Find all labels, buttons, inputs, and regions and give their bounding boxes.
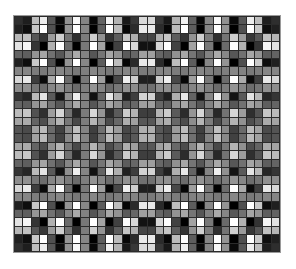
heatmap-cell xyxy=(239,101,246,108)
heatmap-cell xyxy=(247,202,254,209)
heatmap-cell xyxy=(205,218,212,225)
heatmap-cell xyxy=(98,59,105,66)
heatmap-cell xyxy=(114,185,121,192)
heatmap-cell xyxy=(106,143,113,150)
heatmap-cell xyxy=(263,202,270,209)
heatmap-cell xyxy=(90,34,97,41)
heatmap-cell xyxy=(247,67,254,74)
heatmap-cell xyxy=(197,218,204,225)
heatmap-cell xyxy=(255,176,262,183)
heatmap-cell xyxy=(197,202,204,209)
heatmap-cell xyxy=(139,227,146,234)
heatmap-cell xyxy=(230,34,237,41)
heatmap-cell xyxy=(164,160,171,167)
heatmap-cell xyxy=(156,76,163,83)
heatmap-cell xyxy=(15,151,22,158)
heatmap-cell xyxy=(90,210,97,217)
heatmap-cell xyxy=(65,42,72,49)
heatmap-cell xyxy=(90,101,97,108)
heatmap-cell xyxy=(139,218,146,225)
heatmap-cell xyxy=(131,126,138,133)
heatmap-cell xyxy=(139,134,146,141)
heatmap-cell xyxy=(214,227,221,234)
heatmap-cell xyxy=(106,42,113,49)
heatmap-cell xyxy=(214,17,221,24)
heatmap-cell xyxy=(15,202,22,209)
heatmap-cell xyxy=(197,34,204,41)
heatmap-cell xyxy=(98,25,105,32)
heatmap-cell xyxy=(65,76,72,83)
heatmap-cell xyxy=(172,244,179,251)
heatmap-cell xyxy=(90,143,97,150)
heatmap-cell xyxy=(222,51,229,58)
heatmap-cell xyxy=(148,84,155,91)
heatmap-cell xyxy=(181,134,188,141)
heatmap-cell xyxy=(247,210,254,217)
heatmap-cell xyxy=(40,17,47,24)
heatmap-cell xyxy=(114,59,121,66)
heatmap-cell xyxy=(56,42,63,49)
heatmap-cell xyxy=(156,235,163,242)
heatmap-cell xyxy=(247,118,254,125)
heatmap-cell xyxy=(156,118,163,125)
heatmap-cell xyxy=(156,17,163,24)
heatmap-cell xyxy=(172,160,179,167)
heatmap-cell xyxy=(139,160,146,167)
heatmap-cell xyxy=(32,193,39,200)
heatmap-cell xyxy=(106,93,113,100)
heatmap-cell xyxy=(106,34,113,41)
heatmap-cell xyxy=(148,210,155,217)
heatmap-cell xyxy=(255,168,262,175)
heatmap-cell xyxy=(205,235,212,242)
heatmap-cell xyxy=(222,227,229,234)
heatmap-cell xyxy=(148,118,155,125)
heatmap-cell xyxy=(255,218,262,225)
heatmap-cell xyxy=(214,126,221,133)
heatmap-cell xyxy=(73,193,80,200)
heatmap-cell xyxy=(197,67,204,74)
heatmap-cell xyxy=(189,51,196,58)
heatmap-cell xyxy=(106,151,113,158)
heatmap-cell xyxy=(90,244,97,251)
heatmap-cell xyxy=(181,59,188,66)
heatmap-cell xyxy=(56,185,63,192)
heatmap-cell xyxy=(123,202,130,209)
heatmap-cell xyxy=(23,168,30,175)
heatmap-cell xyxy=(106,202,113,209)
heatmap-cell xyxy=(48,134,55,141)
heatmap-cell xyxy=(40,176,47,183)
heatmap-cell xyxy=(205,42,212,49)
heatmap-cell xyxy=(214,235,221,242)
heatmap-grid[interactable] xyxy=(14,16,280,252)
heatmap-cell xyxy=(106,193,113,200)
heatmap-cell xyxy=(32,25,39,32)
heatmap-cell xyxy=(164,93,171,100)
heatmap-cell xyxy=(148,109,155,116)
heatmap-cell xyxy=(148,17,155,24)
heatmap-cell xyxy=(181,93,188,100)
heatmap-cell xyxy=(90,193,97,200)
heatmap-cell xyxy=(205,168,212,175)
heatmap-cell xyxy=(73,93,80,100)
heatmap-cell xyxy=(214,218,221,225)
heatmap-cell xyxy=(255,51,262,58)
heatmap-cell xyxy=(214,176,221,183)
heatmap-cell xyxy=(81,118,88,125)
heatmap-cell xyxy=(40,193,47,200)
heatmap-cell xyxy=(156,59,163,66)
heatmap-cell xyxy=(23,59,30,66)
heatmap-cell xyxy=(32,151,39,158)
heatmap-cell xyxy=(164,76,171,83)
heatmap-cell xyxy=(114,193,121,200)
heatmap-cell xyxy=(156,93,163,100)
heatmap-cell xyxy=(247,160,254,167)
heatmap-cell xyxy=(56,151,63,158)
heatmap-cell xyxy=(23,118,30,125)
heatmap-cell xyxy=(255,143,262,150)
heatmap-cell xyxy=(98,51,105,58)
heatmap-cell xyxy=(164,193,171,200)
heatmap-cell xyxy=(205,126,212,133)
heatmap-cell xyxy=(81,109,88,116)
heatmap-cell xyxy=(139,17,146,24)
heatmap-cell xyxy=(65,134,72,141)
